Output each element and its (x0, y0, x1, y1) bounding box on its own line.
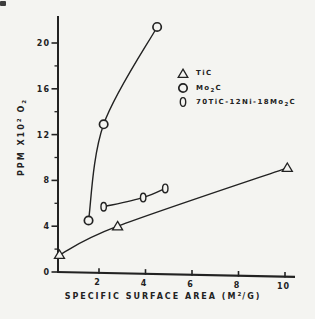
y-tick-label: 0 (43, 268, 50, 277)
legend-item-70tic-12ni-18mo2c: 70TiC-12Ni-18Mo2C (176, 95, 296, 110)
y-tick-label: 4 (43, 222, 50, 231)
y-title-text: PPM X10 (17, 122, 26, 176)
x-title-text: SPECIFIC SURFACE AREA (M (65, 292, 238, 301)
legend-label-tic: TiC (196, 69, 213, 77)
data-point-circle (84, 216, 92, 224)
legend-label-70tic-12ni-18mo2c: 70TiC-12Ni-18Mo2C (196, 98, 296, 106)
x-tick-label: 6 (187, 280, 194, 289)
series-curve-70tic-12ni-18mo2c (104, 188, 166, 206)
x-tick-label: 4 (141, 279, 148, 288)
circle-marker-icon (176, 82, 189, 94)
y-title-superscript: 2 (16, 117, 22, 122)
data-point-circle (153, 23, 161, 31)
legend: TiC Mo2C 70TiC-12Ni-18Mo2C (176, 66, 296, 110)
x-title-text-2: /G) (242, 292, 261, 301)
y-tick-label: 8 (43, 176, 50, 185)
x-axis-ticks: 246810 (94, 268, 290, 290)
y-tick-label: 16 (37, 85, 50, 94)
x-tick-label: 8 (234, 281, 241, 290)
legend-item-tic: TiC (176, 66, 296, 81)
data-point-circle (99, 120, 107, 128)
data-series-layer (54, 23, 292, 259)
data-point-ellipse (101, 202, 106, 211)
y-axis-title: PPM X102 O2 (17, 68, 26, 208)
y-tick-label: 12 (37, 131, 50, 140)
y-tick-label: 20 (37, 39, 50, 48)
data-point-ellipse (140, 193, 145, 202)
data-point-ellipse (163, 184, 168, 193)
legend-label-mo2c: Mo2C (196, 84, 222, 92)
x-axis-line (57, 272, 295, 277)
x-tick-label: 10 (277, 282, 290, 291)
x-tick-label: 2 (94, 278, 101, 287)
y-title-text-2: O (17, 104, 26, 118)
ellipse-marker-icon (176, 96, 189, 108)
x-axis-title: SPECIFIC SURFACE AREA (M2/G) (58, 292, 268, 301)
x-title-superscript: 2 (237, 291, 242, 297)
chart-canvas: 048121620 246810 (0, 0, 315, 319)
scatter-plot-figure: 048121620 246810 PPM X102 O2 SPECIFIC SU… (0, 0, 315, 319)
triangle-marker-icon (176, 68, 189, 79)
y-axis-ticks: 048121620 (37, 39, 59, 277)
data-point-triangle (282, 163, 292, 171)
legend-item-mo2c: Mo2C (176, 81, 296, 96)
series-curve-tic (59, 168, 287, 255)
data-point-triangle (54, 250, 64, 258)
y-title-subscript: 2 (21, 99, 27, 104)
